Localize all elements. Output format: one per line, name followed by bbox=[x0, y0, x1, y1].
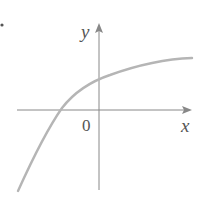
y-axis-label: y bbox=[79, 21, 90, 42]
graph: y 0 x bbox=[0, 0, 207, 204]
bullet-dot bbox=[0, 23, 3, 26]
x-axis-label: x bbox=[180, 115, 190, 136]
origin-label: 0 bbox=[82, 116, 91, 135]
curve bbox=[18, 58, 192, 191]
